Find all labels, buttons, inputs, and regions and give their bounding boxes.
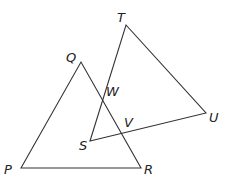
label-r: R [144,162,153,177]
label-w: W [106,84,120,99]
label-s: S [79,138,87,153]
label-t: T [117,10,126,25]
label-p: P [4,162,12,177]
triangle-stu [90,25,206,141]
label-q: Q [66,50,76,65]
geometry-diagram: P Q R S T U V W [0,0,227,184]
label-u: U [209,110,219,125]
label-v: V [124,115,134,130]
